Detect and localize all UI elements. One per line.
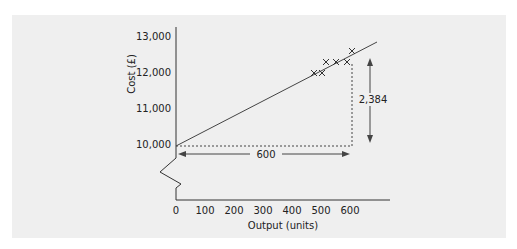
cost-output-chart: 13,000 12,000 11,000 10,000 Cost (£) 0 1…	[0, 0, 517, 249]
x-tick-100: 100	[195, 205, 214, 216]
x-tick-0: 0	[173, 205, 179, 216]
best-fit-line	[176, 42, 377, 146]
y-tick-11000: 11,000	[136, 103, 171, 114]
x-marker-icon	[344, 59, 350, 65]
y-axis-label: Cost (£)	[126, 54, 137, 94]
x-tick-300: 300	[253, 205, 272, 216]
y-tick-10000: 10,000	[136, 139, 171, 150]
x-tick-400: 400	[282, 205, 301, 216]
x-marker-icon	[323, 59, 329, 65]
x-tick-600: 600	[340, 205, 359, 216]
delta-x-label: 600	[256, 149, 275, 160]
delta-y-label: 2,384	[359, 94, 388, 105]
x-marker-icon	[349, 48, 355, 54]
x-axis-label: Output (units)	[248, 220, 318, 231]
data-points	[311, 48, 355, 76]
x-tick-500: 500	[311, 205, 330, 216]
x-tick-200: 200	[224, 205, 243, 216]
y-tick-13000: 13,000	[136, 31, 171, 42]
y-tick-12000: 12,000	[136, 67, 171, 78]
